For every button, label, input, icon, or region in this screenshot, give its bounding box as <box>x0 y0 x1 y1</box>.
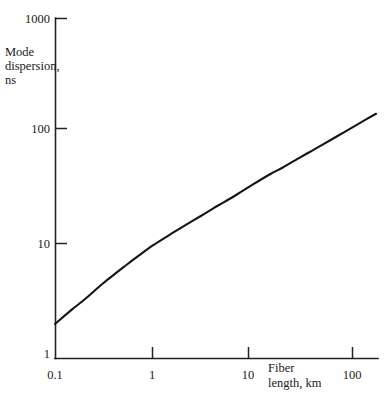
x-tick-label-1: 1 <box>149 368 155 382</box>
y-tick-label-1: 1 <box>44 347 50 361</box>
y-tick-label-100: 100 <box>31 122 50 136</box>
chart-figure: 1000 100 10 1 0.1 1 10 100 Mode dispersi… <box>0 0 390 395</box>
y-axis-title-line-3: ns <box>5 73 16 87</box>
y-tick-label-10: 10 <box>38 237 51 251</box>
y-axis-ticks <box>56 19 68 244</box>
x-axis-title-line-1: Fiber <box>268 361 295 375</box>
x-tick-label-0.1: 0.1 <box>47 368 63 382</box>
x-tick-label-100: 100 <box>343 368 362 382</box>
x-axis-title-line-2: length, km <box>268 376 322 390</box>
y-axis-title: Mode dispersion, ns <box>5 45 60 87</box>
y-axis-title-line-1: Mode <box>5 45 35 59</box>
mode-dispersion-curve <box>55 114 376 324</box>
axes-group <box>55 18 378 359</box>
x-axis-title: Fiber length, km <box>268 361 322 390</box>
x-axis-ticks <box>153 347 353 359</box>
y-tick-label-1000: 1000 <box>25 12 50 26</box>
log-log-plot: 1000 100 10 1 0.1 1 10 100 Mode dispersi… <box>0 0 390 395</box>
y-axis-title-line-2: dispersion, <box>5 59 60 73</box>
x-tick-label-10: 10 <box>242 368 255 382</box>
